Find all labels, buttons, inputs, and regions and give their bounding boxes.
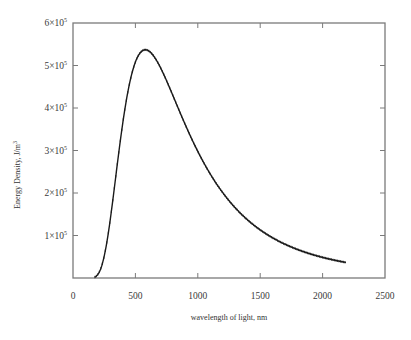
x-tick-label: 1500	[251, 291, 270, 301]
x-tick-label: 1000	[188, 291, 207, 301]
y-tick-label: 5×105	[44, 60, 67, 71]
y-tick-label: 4×105	[44, 102, 67, 113]
blackbody-energy-density-chart: 05001000150020002500 1×1052×1053×1054×10…	[0, 0, 411, 340]
curve-line	[95, 50, 346, 277]
x-axis-ticks: 05001000150020002500	[71, 23, 395, 301]
energy-density-curve	[95, 49, 346, 279]
y-axis-ticks: 1×1052×1053×1054×1055×1056×105	[44, 17, 385, 241]
x-tick-label: 0	[71, 291, 76, 301]
y-tick-label: 6×105	[44, 17, 67, 28]
x-tick-label: 2000	[313, 291, 332, 301]
y-tick-label: 3×105	[44, 145, 67, 156]
y-axis-label-sup: 3	[12, 141, 18, 144]
x-axis-label: wavelength of light, nm	[191, 313, 268, 322]
y-tick-label: 2×105	[44, 187, 67, 198]
y-axis-label-text: Energy Density, J/m	[13, 143, 22, 209]
plot-frame	[73, 23, 385, 278]
x-tick-label: 500	[128, 291, 143, 301]
x-tick-label: 2500	[376, 291, 395, 301]
y-axis-label: Energy Density, J/m3	[12, 141, 22, 209]
y-tick-label: 1×105	[44, 230, 67, 241]
